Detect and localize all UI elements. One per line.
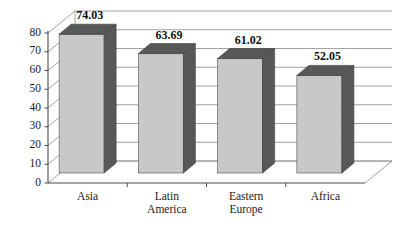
bar-africa [297, 65, 354, 173]
y-tick-label-50: 50 [30, 82, 42, 94]
chart-container: 01020304050607080 AsiaLatinAmericaEaster… [0, 0, 400, 230]
y-axis [45, 31, 49, 183]
bar-front-face [297, 75, 342, 173]
value-label: 63.69 [155, 28, 182, 42]
y-tick-label-70: 70 [30, 44, 42, 56]
bar-front-face [138, 54, 183, 173]
y-tick-label-60: 60 [30, 63, 42, 75]
category-label-latin-america: LatinAmerica [147, 190, 187, 215]
bar-side-face [263, 49, 275, 173]
category-label-line: Latin [155, 190, 180, 202]
y-tick-label-80: 80 [30, 26, 42, 38]
category-label-eastern-europe: EasternEurope [229, 190, 264, 216]
y-tick-label-0: 0 [35, 176, 41, 188]
category-labels: AsiaLatinAmericaEasternEuropeAfrica [77, 190, 340, 216]
y-tick-label-10: 10 [30, 157, 42, 169]
bar-latin-america [138, 44, 195, 173]
bars [59, 24, 354, 173]
value-label: 61.02 [235, 33, 262, 47]
category-label-asia: Asia [77, 190, 98, 202]
bar-side-face [342, 65, 354, 173]
bar-chart-3d: 01020304050607080 AsiaLatinAmericaEaster… [0, 0, 400, 230]
y-tick-label-20: 20 [30, 138, 42, 150]
value-label: 74.03 [76, 8, 103, 22]
category-label-line: Europe [230, 203, 263, 216]
category-label-line: Eastern [229, 190, 264, 202]
category-label-line: America [147, 203, 187, 215]
bar-side-face [104, 24, 116, 173]
value-label: 52.05 [314, 49, 341, 63]
bar-front-face [218, 59, 263, 173]
bar-front-face [59, 34, 104, 173]
x-axis [48, 183, 365, 187]
y-tick-label-40: 40 [30, 101, 42, 113]
category-label-line: Asia [77, 190, 98, 202]
y-tick-label-30: 30 [30, 119, 42, 131]
bar-eastern-europe [218, 49, 275, 173]
floor-right-diagonal [365, 161, 392, 183]
category-label-line: Africa [311, 190, 340, 202]
bar-side-face [183, 44, 195, 173]
y-tick-labels: 01020304050607080 [30, 26, 42, 188]
category-label-africa: Africa [311, 190, 340, 202]
bar-asia [59, 24, 116, 173]
